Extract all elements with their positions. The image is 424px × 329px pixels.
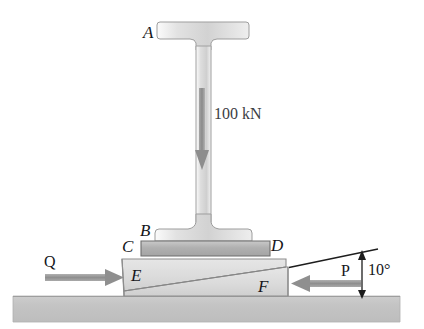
label-point-f: F — [258, 278, 268, 295]
label-angle-value: 10° — [368, 262, 390, 278]
diagram-canvas — [0, 0, 424, 329]
label-load-value: 100 kN — [214, 106, 262, 122]
label-force-p: P — [341, 263, 350, 279]
label-point-d: D — [271, 237, 283, 254]
label-point-c: C — [122, 238, 133, 255]
p-arrow-head — [291, 275, 310, 292]
bearing-plate-cd — [141, 241, 270, 256]
label-point-e: E — [131, 267, 141, 284]
beam-bottom-flange — [155, 214, 252, 241]
q-arrow-shaft — [45, 274, 107, 281]
bearing-plate-body — [141, 241, 270, 256]
force-q-arrow — [45, 269, 124, 286]
p-arrow-shaft — [308, 280, 361, 287]
label-force-q: Q — [44, 254, 56, 270]
label-point-a: A — [143, 24, 153, 41]
label-point-b: B — [140, 222, 150, 239]
force-p-arrow — [291, 275, 361, 292]
ground-surface — [13, 296, 400, 322]
angle-dimension-arrow — [358, 250, 366, 299]
load-arrow-shaft — [199, 88, 205, 154]
statics-diagram-figure: A B C D E F Q P 100 kN 10° — [0, 0, 424, 329]
q-arrow-head — [105, 269, 124, 286]
